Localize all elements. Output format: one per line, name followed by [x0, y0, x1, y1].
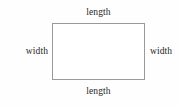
label-right-width: width — [150, 46, 179, 57]
label-top-length: length — [52, 7, 145, 18]
rectangle-shape — [52, 23, 145, 80]
label-bottom-length: length — [52, 86, 145, 97]
label-left-width: width — [0, 46, 48, 57]
rectangle-dimension-diagram: length width width length — [0, 0, 179, 107]
